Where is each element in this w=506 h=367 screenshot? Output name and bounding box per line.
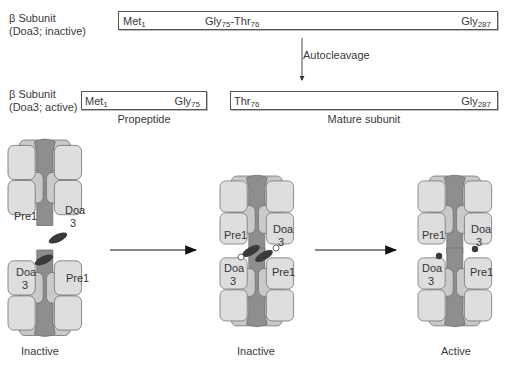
svg-text:3: 3 <box>22 279 28 291</box>
svg-text:Doa: Doa <box>422 262 443 274</box>
svg-text:3: 3 <box>278 236 284 248</box>
svg-text:Pre1: Pre1 <box>272 266 295 278</box>
svg-text:3: 3 <box>70 217 76 229</box>
svg-text:Doa: Doa <box>273 223 294 235</box>
svg-text:3: 3 <box>476 236 482 248</box>
pre1-label: Pre1 <box>14 210 37 222</box>
svg-text:Pre1: Pre1 <box>422 229 445 241</box>
svg-text:Doa: Doa <box>65 204 86 216</box>
svg-text:Pre1: Pre1 <box>224 229 247 241</box>
inactive-site-icon <box>238 254 244 260</box>
svg-text:Pre1: Pre1 <box>470 266 493 278</box>
active-site-icon <box>472 246 478 252</box>
svg-text:3: 3 <box>230 275 236 287</box>
svg-text:3: 3 <box>428 275 434 287</box>
proteasome-assembly-diagram: Pre1 Doa 3 Doa 3 Pre1 Pre1 Doa 3 Doa 3 P… <box>0 0 506 367</box>
propeptide-icon <box>47 230 69 246</box>
stage-3-caption: Active <box>426 345 486 357</box>
stage-1-inactive-separated: Pre1 Doa 3 Doa 3 Pre1 <box>8 139 89 336</box>
svg-text:Doa: Doa <box>224 262 245 274</box>
active-site-icon <box>436 253 442 259</box>
stage-1-caption: Inactive <box>10 345 70 357</box>
svg-text:Doa: Doa <box>471 223 492 235</box>
inactive-site-icon <box>273 245 279 251</box>
stage-3-active: Pre1 Doa 3 Doa 3 Pre1 <box>418 175 493 327</box>
svg-text:Doa: Doa <box>16 266 37 278</box>
stage-2-inactive-joined: Pre1 Doa 3 Doa 3 Pre1 <box>220 175 295 327</box>
svg-text:Pre1: Pre1 <box>66 272 89 284</box>
stage-2-caption: Inactive <box>226 345 286 357</box>
